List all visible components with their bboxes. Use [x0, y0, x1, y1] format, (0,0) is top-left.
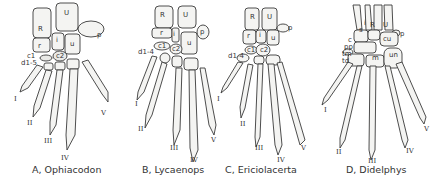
label-i: i — [259, 32, 261, 39]
caption-c: C, Ericiolacerta — [225, 164, 297, 175]
label-c2: c2 — [172, 46, 180, 53]
caption-b: B, Lycaenops — [142, 164, 204, 175]
panel-d-didelphys: i R U s cu p c pp tm td m un I II III IV… — [310, 0, 433, 188]
label-U: U — [64, 10, 69, 17]
digit-I: I — [135, 101, 138, 108]
digit-V: V — [301, 145, 306, 152]
label-p: p — [400, 31, 404, 38]
label-d1-5: d1-5 — [21, 60, 37, 67]
digit-II: II — [240, 121, 246, 128]
digit-V: V — [424, 126, 429, 133]
label-U: U — [183, 12, 188, 19]
hand-skeleton-ericiolacerta — [210, 0, 310, 188]
digit-III: III — [255, 145, 263, 152]
label-u: u — [70, 41, 74, 48]
label-R: R — [250, 14, 255, 21]
label-c2: c2 — [56, 53, 64, 60]
label-r: r — [38, 43, 41, 50]
digit-I: I — [217, 96, 220, 103]
label-r: r — [247, 33, 250, 40]
digit-III: III — [170, 145, 178, 152]
label-R: R — [38, 26, 43, 33]
label-p: p — [288, 25, 292, 32]
label-td: td — [342, 58, 349, 65]
label-R: R — [160, 12, 165, 19]
label-i: i — [173, 31, 175, 38]
digit-I: I — [324, 107, 327, 114]
label-u: u — [187, 40, 191, 47]
digit-I: I — [14, 96, 17, 103]
label-c1: c1 — [158, 43, 166, 50]
caption-a: A, Ophiacodon — [32, 164, 101, 175]
label-un: un — [389, 52, 398, 59]
label-c1: c1 — [247, 47, 255, 54]
label-cu: cu — [383, 36, 391, 43]
label-U: U — [383, 22, 388, 29]
label-U: U — [267, 14, 272, 21]
label-d1-4: d1-4 — [138, 49, 154, 56]
label-i: i — [364, 20, 366, 27]
label-c2: c2 — [260, 47, 268, 54]
label-s: s — [359, 27, 363, 34]
label-m: m — [372, 55, 379, 62]
label-R: R — [370, 22, 375, 29]
panel-b-lycaenops: R U p r i u c1 c2 d1-4 I II III IV V B, … — [110, 0, 210, 188]
label-i: i — [56, 37, 58, 44]
digit-IV: IV — [406, 148, 414, 155]
digit-IV: IV — [277, 157, 285, 164]
label-p: p — [97, 32, 101, 39]
label-u: u — [271, 35, 275, 42]
digit-II: II — [138, 126, 144, 133]
digit-III: III — [44, 138, 52, 145]
hand-skeleton-ophiacodon — [0, 0, 110, 188]
label-r: r — [160, 30, 163, 37]
digit-IV: IV — [61, 155, 69, 162]
caption-d: D, Didelphys — [346, 164, 406, 175]
digit-II: II — [27, 120, 33, 127]
label-p: p — [200, 29, 204, 36]
digit-II: II — [336, 149, 342, 156]
digit-IV: IV — [190, 157, 198, 164]
panel-c-ericiolacerta: R U p r i u c1 c2 d1-4 I II III IV V C, … — [210, 0, 310, 188]
label-d1-4: d1-4 — [228, 53, 244, 60]
panel-a-ophiacodon: R U p r i u c1 c2 d1-5 I II III IV V A, … — [0, 0, 110, 188]
digit-V: V — [101, 110, 106, 117]
